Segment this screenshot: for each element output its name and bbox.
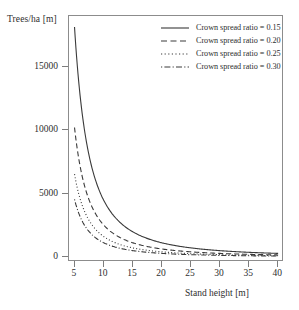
legend-swatch-dotted <box>160 49 190 59</box>
x-tick-mark <box>132 261 133 267</box>
x-tick-label: 5 <box>71 268 76 278</box>
legend-swatch-dashed <box>160 36 190 46</box>
legend-swatch-solid <box>160 23 190 33</box>
legend-label: Crown spread ratio = 0.20 <box>196 36 281 45</box>
legend-item: Crown spread ratio = 0.30 <box>160 61 286 73</box>
x-tick-mark <box>161 261 162 267</box>
y-tick-mark <box>62 256 68 257</box>
y-tick-mark <box>62 66 68 67</box>
x-tick-mark <box>219 261 220 267</box>
legend-item: Crown spread ratio = 0.15 <box>160 22 286 34</box>
x-tick-mark <box>103 261 104 267</box>
legend-swatch-dashdot <box>160 62 190 72</box>
x-tick-label: 25 <box>185 268 195 278</box>
x-tick-label: 10 <box>98 268 108 278</box>
x-tick-mark <box>74 261 75 267</box>
x-tick-label: 20 <box>156 268 166 278</box>
legend-label: Crown spread ratio = 0.30 <box>196 62 281 71</box>
x-axis-label: Stand height [m] <box>185 288 249 298</box>
x-tick-mark <box>190 261 191 267</box>
x-tick-label: 15 <box>127 268 137 278</box>
y-tick-label: 0 <box>53 251 58 261</box>
y-tick-mark <box>62 193 68 194</box>
legend: Crown spread ratio = 0.15 Crown spread r… <box>160 22 286 74</box>
legend-label: Crown spread ratio = 0.25 <box>196 49 281 58</box>
x-tick-label: 30 <box>214 268 224 278</box>
y-tick-label-group: 050001000015000 <box>0 0 58 310</box>
curve-dashdot <box>75 199 279 256</box>
x-tick-label: 35 <box>243 268 253 278</box>
y-tick-label: 10000 <box>34 124 58 134</box>
y-tick-mark <box>62 129 68 130</box>
y-tick-label: 15000 <box>34 61 58 71</box>
x-tick-label: 40 <box>272 268 282 278</box>
legend-item: Crown spread ratio = 0.20 <box>160 35 286 47</box>
x-tick-mark <box>248 261 249 267</box>
legend-item: Crown spread ratio = 0.25 <box>160 48 286 60</box>
chart-figure: Trees/ha [m] 050001000015000 Crown sprea… <box>0 0 299 310</box>
x-tick-mark <box>277 261 278 267</box>
curve-dashed <box>75 128 279 255</box>
legend-label: Crown spread ratio = 0.15 <box>196 23 281 32</box>
y-tick-label: 5000 <box>39 188 58 198</box>
